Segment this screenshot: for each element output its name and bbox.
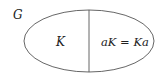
subgroup-k-label: K (55, 35, 66, 49)
coset-diagram: G K aK = Ka (0, 0, 163, 74)
coset-label: aK = Ka (101, 35, 149, 49)
set-g-label: G (13, 8, 23, 22)
